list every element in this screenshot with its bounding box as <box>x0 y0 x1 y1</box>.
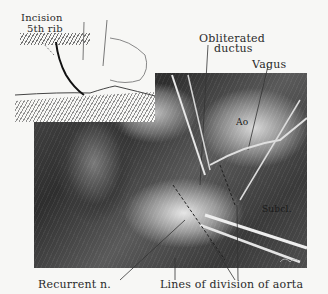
inset-chest-wall-shading <box>20 33 90 45</box>
label-incision: Incision <box>21 13 63 23</box>
label-fifth-rib: 5th rib <box>27 24 63 34</box>
label-obliterated-ductus-line2: ductus <box>214 43 253 54</box>
label-vagus: Vagus <box>252 59 286 70</box>
label-lines-of-division: Lines of division of aorta <box>160 279 303 290</box>
label-aorta: Ao <box>236 117 248 128</box>
surgical-illustration: Incision 5th rib Obliterated ductus Vagu… <box>0 0 328 294</box>
inset-body-shading <box>15 92 155 122</box>
label-subclavian: Subcl. <box>262 204 292 215</box>
label-recurrent-nerve: Recurrent n. <box>38 279 111 290</box>
